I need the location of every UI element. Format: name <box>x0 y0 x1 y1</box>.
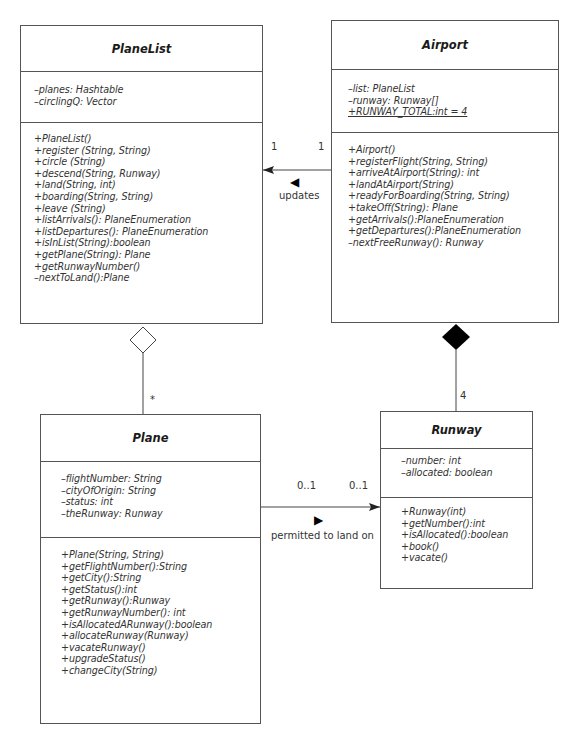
filled-diamond-composition-icon <box>442 324 470 350</box>
class-name-plane: Plane <box>41 415 260 462</box>
operation: +listArrivals(): PlaneEnumeration <box>34 214 262 226</box>
operation: +registerFlight(String, String) <box>348 156 558 168</box>
attribute: –theRunway: Runway <box>61 508 260 520</box>
operation: +vacateRunway() <box>61 642 260 654</box>
attribute: –circlingQ: Vector <box>34 96 262 108</box>
attributes-plane: –flightNumber: String –cityOfOrigin: Str… <box>41 461 260 538</box>
class-plane[interactable]: Plane –flightNumber: String –cityOfOrigi… <box>40 414 261 724</box>
operation: +book() <box>401 541 532 553</box>
operations-airport: +Airport() +registerFlight(String, Strin… <box>332 133 558 322</box>
attribute: –status: int <box>61 496 260 508</box>
multiplicity-runway-association: 0..1 <box>349 480 368 491</box>
multiplicity-airport: 1 <box>318 141 324 152</box>
operation: +isInList(String):boolean <box>34 237 262 249</box>
operation: +isAllocatedARunway():boolean <box>61 619 260 631</box>
operation: +changeCity(String) <box>61 665 260 677</box>
multiplicity-plane-association: 0..1 <box>297 480 316 491</box>
attribute: –list: PlaneList <box>348 83 558 95</box>
operation: +getCity():String <box>61 572 260 584</box>
class-planelist[interactable]: PlaneList –planes: Hashtable –circlingQ:… <box>20 25 263 324</box>
class-airport[interactable]: Airport –list: PlaneList –runway: Runway… <box>331 20 559 323</box>
association-label-permitted: permitted to land on <box>271 530 374 541</box>
operation: +takeOff(String): Plane <box>348 202 558 214</box>
operation: +upgradeStatus() <box>61 653 260 665</box>
operation: +getStatus():int <box>61 584 260 596</box>
association-label-updates: updates <box>279 190 319 201</box>
operation: +leave (String) <box>34 203 262 215</box>
operation: +getNumber():int <box>401 518 532 530</box>
class-name-planelist: PlaneList <box>21 26 262 72</box>
operation: +getDepartures():PlaneEnumeration <box>348 225 558 237</box>
operation: +getFlightNumber():String <box>61 561 260 573</box>
operations-runway: +Runway(int) +getNumber():int +isAllocat… <box>381 498 532 588</box>
operation: +getArrivals():PlaneEnumeration <box>348 214 558 226</box>
operation: +getPlane(String): Plane <box>34 249 262 261</box>
operation: +getRunwayNumber() <box>34 261 262 273</box>
operations-plane: +Plane(String, String) +getFlightNumber(… <box>41 538 260 723</box>
attribute: –allocated: boolean <box>401 467 532 479</box>
operation: +allocateRunway(Runway) <box>61 630 260 642</box>
operation: +getRunwayNumber(): int <box>61 607 260 619</box>
operation: +land(String, int) <box>34 179 262 191</box>
operations-planelist: +PlaneList() +register (String, String) … <box>21 123 262 323</box>
multiplicity-plane-aggregation: * <box>150 394 155 405</box>
multiplicity-runway-composition: 4 <box>460 390 466 401</box>
static-attribute: +RUNWAY_TOTAL:int = 4 <box>348 106 558 118</box>
direction-triangle-left-icon: ◀ <box>290 175 299 189</box>
operation: +register (String, String) <box>34 145 262 157</box>
operation: +landAtAirport(String) <box>348 179 558 191</box>
operation: +readyForBoarding(String, String) <box>348 190 558 202</box>
multiplicity-planelist: 1 <box>271 141 277 152</box>
class-name-runway: Runway <box>381 412 532 449</box>
operation: +descend(String, Runway) <box>34 168 262 180</box>
attributes-airport: –list: PlaneList –runway: Runway[] +RUNW… <box>332 69 558 133</box>
class-runway[interactable]: Runway –number: int –allocated: boolean … <box>380 411 533 589</box>
direction-triangle-right-icon: ▶ <box>314 513 323 527</box>
operation: +PlaneList() <box>34 133 262 145</box>
attribute: –cityOfOrigin: String <box>61 485 260 497</box>
class-name-airport: Airport <box>332 21 558 70</box>
attribute: –number: int <box>401 455 532 467</box>
operation: –nextFreeRunway(): Runway <box>348 237 558 249</box>
attributes-runway: –number: int –allocated: boolean <box>381 448 532 498</box>
operation: +circle (String) <box>34 156 262 168</box>
operation: +Runway(int) <box>401 506 532 518</box>
open-arrowhead-right-icon <box>369 503 380 511</box>
operation: –nextToLand():Plane <box>34 272 262 284</box>
operation: +Plane(String, String) <box>61 549 260 561</box>
attributes-planelist: –planes: Hashtable –circlingQ: Vector <box>21 71 262 123</box>
operation: +arriveAtAirport(String): int <box>348 167 558 179</box>
operation: +vacate() <box>401 552 532 564</box>
attribute: –flightNumber: String <box>61 473 260 485</box>
operation: +boarding(String, String) <box>34 191 262 203</box>
hollow-diamond-aggregation-icon <box>130 327 156 353</box>
operation: +Airport() <box>348 144 558 156</box>
operation: +getRunway():Runway <box>61 595 260 607</box>
operation: +isAllocated():boolean <box>401 529 532 541</box>
attribute: –runway: Runway[] <box>348 95 558 107</box>
operation: +listDepartures(): PlaneEnumeration <box>34 226 262 238</box>
open-arrowhead-left-icon <box>263 166 274 174</box>
attribute: –planes: Hashtable <box>34 84 262 96</box>
